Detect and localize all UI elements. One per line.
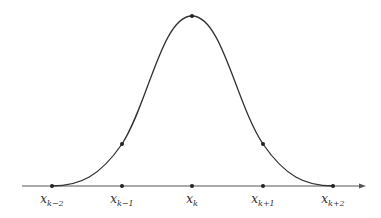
node-label-k: xk	[186, 192, 198, 208]
curve-points	[120, 14, 265, 146]
bell-curve	[52, 16, 333, 186]
axis-arrow-icon	[359, 184, 366, 189]
node-label-k-minus-1: xk−1	[110, 192, 133, 208]
node-label-k-plus-2: xk+2	[321, 192, 344, 208]
diagram-canvas	[0, 0, 381, 218]
node-label-k-plus-1: xk+1	[251, 192, 274, 208]
node-label-k-minus-2: xk−2	[40, 192, 63, 208]
